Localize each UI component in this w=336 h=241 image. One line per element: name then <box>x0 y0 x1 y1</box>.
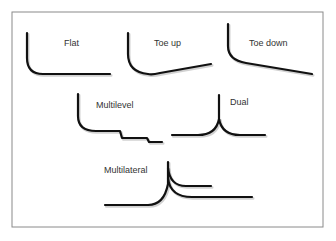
well-multilevel-label: Multilevel <box>96 100 134 110</box>
well-types-diagram: Flat Toe up Toe down Multilevel Dual Mul… <box>0 0 336 241</box>
well-toe-down-label: Toe down <box>249 38 288 48</box>
well-toe-up-label: Toe up <box>154 38 181 48</box>
well-flat-label: Flat <box>64 38 80 48</box>
well-dual-label: Dual <box>230 97 249 107</box>
well-multilateral-label: Multilateral <box>104 165 148 175</box>
